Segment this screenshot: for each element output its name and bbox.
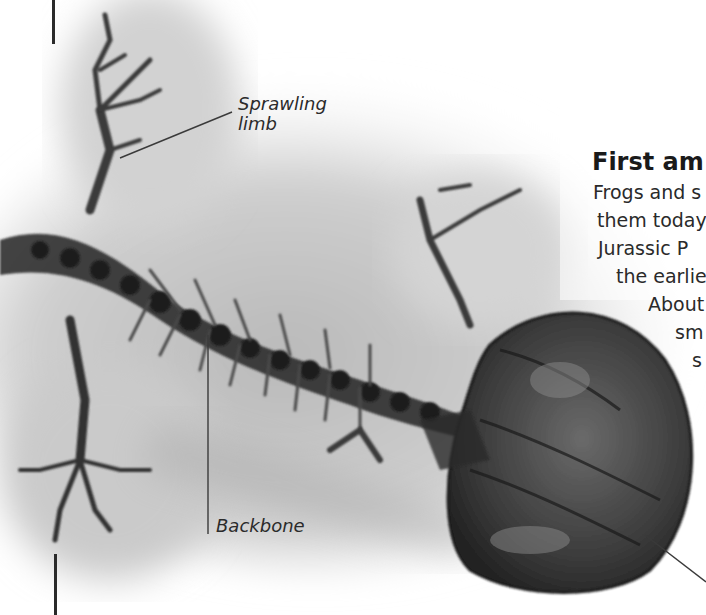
body-text-line: About <box>648 292 704 316</box>
book-page: Sprawling limb Backbone First am Frogs a… <box>0 0 706 615</box>
callout-sprawling-limb-line1: Sprawling <box>238 94 327 114</box>
body-text-line: Jurassic P <box>598 236 688 260</box>
body-text-line: them today <box>597 208 706 232</box>
body-text-line: the earlie <box>616 264 706 288</box>
body-text-line: s <box>692 348 702 372</box>
callout-backbone-label: Backbone <box>216 516 305 536</box>
callout-sprawling-limb-line2: limb <box>238 114 327 134</box>
body-text-line: Frogs and s <box>593 180 701 204</box>
section-heading: First am <box>592 148 704 176</box>
callout-sprawling-limb: Sprawling limb <box>238 94 327 134</box>
callout-leaders <box>0 0 706 615</box>
callout-backbone: Backbone <box>216 516 305 536</box>
body-text-line: sm <box>675 320 703 344</box>
